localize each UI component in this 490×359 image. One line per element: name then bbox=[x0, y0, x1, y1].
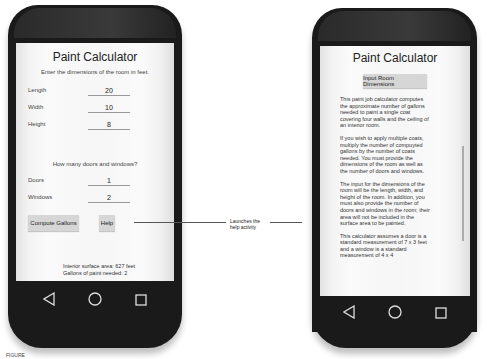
length-row: Length 20 bbox=[28, 79, 174, 96]
nav-bar bbox=[312, 296, 477, 332]
windows-row: Windows 2 bbox=[28, 186, 174, 203]
help-paragraph: The input for the dimensions of the room… bbox=[340, 181, 430, 227]
help-paragraph: If you wish to apply multiple coats, mul… bbox=[340, 135, 430, 175]
callout-text: Launches the help activity bbox=[230, 218, 260, 230]
length-label: Length bbox=[28, 87, 88, 96]
home-icon[interactable] bbox=[388, 305, 402, 323]
help-button[interactable]: Help bbox=[99, 215, 115, 231]
back-icon[interactable] bbox=[343, 305, 355, 323]
input-room-dimensions-button[interactable]: Input Room Dimensions bbox=[363, 74, 427, 88]
instruction-text: Enter the dimensions of the room in feet… bbox=[16, 69, 174, 75]
doors-input[interactable]: 1 bbox=[88, 177, 130, 186]
height-row: Height 8 bbox=[28, 113, 174, 130]
length-input[interactable]: 20 bbox=[88, 87, 130, 96]
scrollbar[interactable] bbox=[462, 146, 464, 241]
width-row: Width 10 bbox=[28, 96, 174, 113]
height-input[interactable]: 8 bbox=[88, 121, 130, 130]
windows-label: Windows bbox=[28, 194, 88, 203]
results: Interior surface area: 627 feet Gallons … bbox=[63, 263, 174, 277]
help-paragraph: This paint job calculator computes the a… bbox=[340, 96, 430, 129]
gallons-text: Gallons of paint needed: 2 bbox=[63, 270, 174, 277]
callout-line-right bbox=[270, 222, 302, 223]
figure-caption: FIGURE bbox=[6, 352, 25, 358]
callout-line-left bbox=[134, 222, 226, 223]
recent-apps-icon[interactable] bbox=[435, 305, 447, 323]
doors-windows-question: How many doors and windows? bbox=[16, 161, 174, 167]
doors-label: Doors bbox=[28, 177, 88, 186]
compute-gallons-button[interactable]: Compute Gallons bbox=[28, 215, 79, 231]
page-title: Paint Calculator bbox=[16, 50, 174, 64]
callout-line-2: help activity bbox=[230, 224, 260, 230]
phone-left: Paint Calculator Enter the dimensions of… bbox=[8, 5, 182, 348]
windows-input[interactable]: 2 bbox=[88, 194, 130, 203]
width-input[interactable]: 10 bbox=[88, 104, 130, 113]
home-icon[interactable] bbox=[88, 292, 102, 310]
recent-apps-icon[interactable] bbox=[135, 292, 147, 310]
page-title: Paint Calculator bbox=[320, 51, 470, 65]
back-icon[interactable] bbox=[43, 292, 55, 310]
doors-row: Doors 1 bbox=[28, 169, 174, 186]
height-label: Height bbox=[28, 121, 88, 130]
help-paragraph: This calculator assumes a door is a stan… bbox=[340, 233, 430, 259]
phone-right: Paint Calculator Input Room Dimensions T… bbox=[312, 8, 477, 348]
nav-bar bbox=[8, 281, 182, 321]
surface-area-text: Interior surface area: 627 feet bbox=[63, 263, 174, 270]
width-label: Width bbox=[28, 104, 88, 113]
calculator-screen: Paint Calculator Enter the dimensions of… bbox=[16, 43, 174, 281]
